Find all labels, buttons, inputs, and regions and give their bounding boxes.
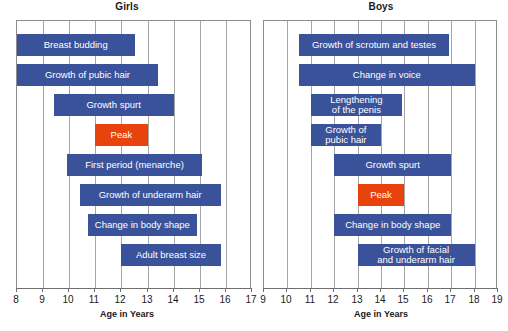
plot-area-girls: Breast buddingGrowth of pubic hairGrowth…: [16, 20, 251, 288]
x-tick-boys-11: [310, 288, 311, 292]
bar-girls-7: Adult breast size: [121, 244, 220, 266]
x-tick-label-boys-18: 18: [464, 294, 484, 305]
x-tick-label-boys-19: 19: [487, 294, 507, 305]
x-tick-girls-16: [225, 288, 226, 292]
x-tick-label-girls-8: 8: [6, 294, 26, 305]
bar-boys-3: Growth of pubic hair: [311, 124, 381, 146]
x-tick-boys-16: [427, 288, 428, 292]
x-tick-label-girls-9: 9: [32, 294, 52, 305]
x-tick-label-boys-13: 13: [347, 294, 367, 305]
x-tick-girls-9: [42, 288, 43, 292]
x-tick-boys-10: [286, 288, 287, 292]
gridline-boys-18: [475, 21, 476, 288]
x-tick-girls-15: [199, 288, 200, 292]
bar-boys-6: Change in body shape: [334, 214, 451, 236]
x-tick-label-boys-15: 15: [393, 294, 413, 305]
chart-panel-girls: Girls Breast buddingGrowth of pubic hair…: [0, 0, 254, 331]
x-tick-label-boys-14: 14: [370, 294, 390, 305]
bar-girls-2: Growth spurt: [54, 94, 174, 116]
x-tick-label-boys-12: 12: [323, 294, 343, 305]
x-tick-boys-17: [450, 288, 451, 292]
x-tick-label-boys-10: 10: [276, 294, 296, 305]
x-tick-boys-15: [403, 288, 404, 292]
bar-girls-6: Change in body shape: [88, 214, 198, 236]
bar-girls-5: Growth of underarm hair: [80, 184, 221, 206]
x-tick-label-girls-10: 10: [58, 294, 78, 305]
x-tick-girls-11: [94, 288, 95, 292]
puberty-timeline-figure: Girls Breast buddingGrowth of pubic hair…: [0, 0, 508, 331]
x-tick-label-girls-14: 14: [163, 294, 183, 305]
x-tick-label-boys-9: 9: [253, 294, 273, 305]
x-tick-girls-14: [173, 288, 174, 292]
bar-boys-0: Growth of scrotum and testes: [299, 34, 449, 56]
chart-title-girls: Girls: [0, 1, 254, 12]
x-tick-boys-14: [380, 288, 381, 292]
x-tick-label-girls-16: 16: [215, 294, 235, 305]
bar-boys-4: Growth spurt: [334, 154, 451, 176]
axis-title-girls: Age in Years: [0, 309, 254, 319]
bar-boys-7: Growth of facial and underarm hair: [358, 244, 475, 266]
bar-boys-5: Peak: [358, 184, 405, 206]
x-tick-label-boys-11: 11: [300, 294, 320, 305]
x-tick-label-girls-13: 13: [137, 294, 157, 305]
x-tick-label-girls-11: 11: [84, 294, 104, 305]
x-tick-boys-13: [357, 288, 358, 292]
x-axis-line-girls: [16, 288, 251, 289]
x-tick-girls-17: [251, 288, 252, 292]
bar-girls-3: Peak: [95, 124, 147, 146]
x-tick-girls-13: [147, 288, 148, 292]
bar-boys-1: Change in voice: [299, 64, 475, 86]
x-tick-girls-12: [120, 288, 121, 292]
x-tick-girls-10: [68, 288, 69, 292]
chart-panel-boys: Boys Growth of scrotum and testesChange …: [254, 0, 508, 331]
gridline-girls-16: [226, 21, 227, 288]
bar-girls-0: Breast budding: [17, 34, 135, 56]
x-tick-boys-18: [474, 288, 475, 292]
x-tick-boys-12: [333, 288, 334, 292]
chart-title-boys: Boys: [254, 1, 508, 12]
x-tick-boys-19: [497, 288, 498, 292]
gridline-boys-11: [311, 21, 312, 288]
bar-girls-1: Growth of pubic hair: [17, 64, 158, 86]
x-tick-label-girls-15: 15: [189, 294, 209, 305]
axis-title-boys: Age in Years: [254, 309, 508, 319]
x-tick-label-boys-16: 16: [417, 294, 437, 305]
x-tick-girls-8: [16, 288, 17, 292]
bar-boys-2: Lengthening of the penis: [311, 94, 402, 116]
gridline-girls-9: [43, 21, 44, 288]
plot-area-boys: Growth of scrotum and testesChange in vo…: [263, 20, 497, 288]
x-tick-boys-9: [263, 288, 264, 292]
x-tick-label-boys-17: 17: [440, 294, 460, 305]
bar-girls-4: First period (menarche): [67, 154, 203, 176]
gridline-boys-10: [287, 21, 288, 288]
x-tick-label-girls-12: 12: [110, 294, 130, 305]
